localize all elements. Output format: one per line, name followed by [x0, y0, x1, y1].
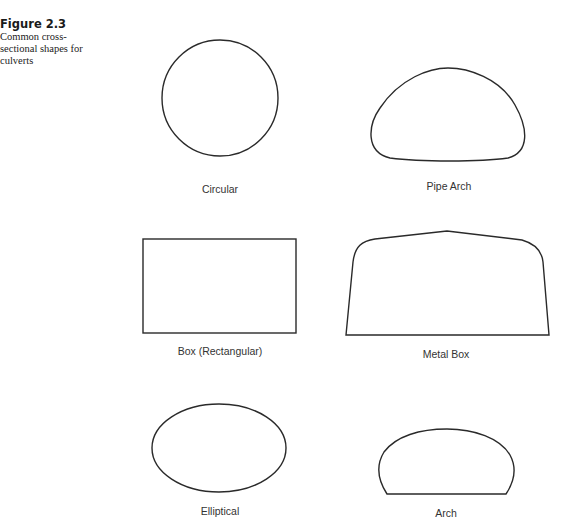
pipe-arch-shape: [371, 68, 525, 161]
label-metal-box: Metal Box: [366, 348, 526, 360]
arch-shape: [379, 429, 514, 494]
metal-box-shape: [346, 231, 549, 335]
elliptical-shape: [152, 404, 286, 492]
label-pipe-arch: Pipe Arch: [369, 180, 529, 192]
label-arch: Arch: [366, 507, 526, 519]
culvert-shapes-diagram: [0, 0, 568, 530]
circular-shape: [162, 40, 278, 156]
label-elliptical: Elliptical: [140, 505, 300, 517]
label-circular: Circular: [140, 183, 300, 195]
label-box: Box (Rectangular): [140, 345, 300, 357]
box-rectangular-shape: [143, 239, 296, 333]
